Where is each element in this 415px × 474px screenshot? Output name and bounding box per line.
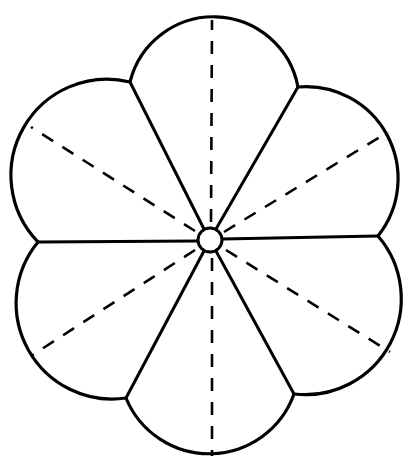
seam-lower-right <box>216 251 294 394</box>
petal-lower-left <box>16 242 126 399</box>
petal-lower-right <box>294 236 401 395</box>
fold-line-lower-right <box>226 250 390 352</box>
petal-upper-right <box>298 87 398 236</box>
petal-upper-left <box>11 79 130 242</box>
fold-line-upper-left <box>31 127 195 231</box>
fold-line-upper-right <box>224 132 388 232</box>
seam-right <box>222 236 378 239</box>
flower-diagram <box>0 0 415 474</box>
center-hole-circle <box>198 228 222 252</box>
seam-lower-left <box>126 251 204 398</box>
petal-bottom <box>126 394 294 454</box>
seam-upper-left <box>130 82 204 229</box>
flower-svg <box>0 0 415 474</box>
fold-line-lower-left <box>31 250 195 356</box>
petal-top <box>130 17 298 87</box>
seam-upper-right <box>216 87 298 229</box>
seam-left <box>38 241 198 242</box>
fold-line-top <box>211 20 212 222</box>
